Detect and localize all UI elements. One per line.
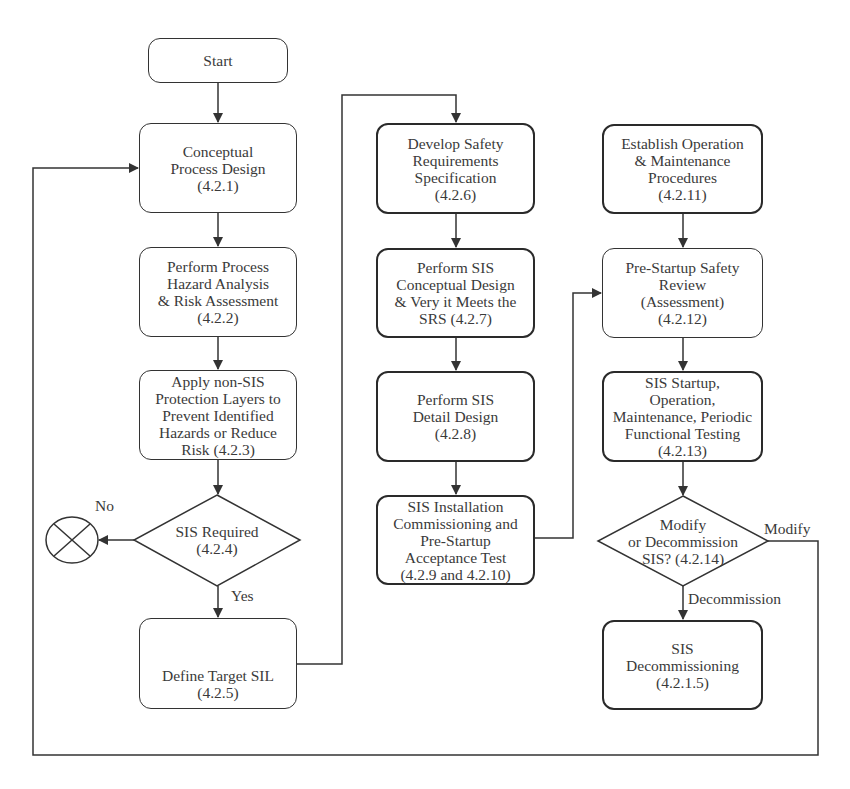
node-text: Hazards or Reduce [159,424,277,441]
node-text: Process Design [170,160,265,177]
node-text: Apply non-SIS [171,373,264,390]
node-text: Conceptual [183,143,254,160]
modify-decommission-label: Modify or Decommission SIS? (4.2.14) [613,516,753,567]
node-text: Prevent Identified [162,407,273,424]
node-text: Procedures [648,169,717,186]
node-text: Operation, [650,391,716,408]
non-sis-protection-node: Apply non-SIS Protection Layers to Preve… [139,370,297,460]
edge-label-yes: Yes [231,587,254,605]
sis-startup-node: SIS Startup, Operation, Maintenance, Per… [602,371,763,462]
node-text: (4.2.12) [658,310,707,327]
node-text: (Assessment) [641,293,725,310]
node-text: Maintenance, Periodic [613,408,752,425]
node-text: Commissioning and [393,515,517,532]
node-text: Develop Safety [408,135,504,152]
node-text: & Very it Meets the [395,293,517,310]
node-text: Functional Testing [625,425,740,442]
node-text: (4.2.11) [658,186,707,203]
node-text: Modify [613,516,753,533]
node-text: SIS Startup, [645,374,720,391]
node-text: Perform SIS [417,259,494,276]
node-text: SRS (4.2.7) [419,310,492,327]
node-text: (4.2.1.5) [656,674,709,691]
edge-label-modify: Modify [764,520,811,538]
edge-label-no: No [95,497,114,515]
node-text: SIS Required [167,523,267,540]
node-text: SIS? (4.2.14) [613,550,753,567]
node-text: SIS Installation [407,498,503,515]
sis-installation-node: SIS Installation Commissioning and Pre-S… [376,495,535,585]
sis-conceptual-design-node: Perform SIS Conceptual Design & Very it … [376,248,535,338]
start-node: Start [148,38,288,83]
node-text: (4.2.9 and 4.2.10) [400,566,510,583]
node-text: Pre-Startup Safety [625,259,739,276]
node-text: Risk (4.2.3) [181,441,255,458]
define-target-sil-node: Define Target SIL (4.2.5) [139,618,297,709]
process-hazard-analysis-node: Perform Process Hazard Analysis & Risk A… [139,247,297,337]
node-text: Acceptance Test [405,549,506,566]
sis-detail-design-node: Perform SIS Detail Design (4.2.8) [376,371,535,462]
node-text: Decommissioning [626,657,739,674]
node-text: (4.2.1) [197,177,238,194]
node-text: Requirements [412,152,498,169]
node-text: Pre-Startup [420,532,491,549]
operation-maintenance-procedures-node: Establish Operation & Maintenance Proced… [602,124,763,214]
node-text: & Maintenance [635,152,731,169]
node-text: Hazard Analysis [167,275,269,292]
develop-srs-node: Develop Safety Requirements Specificatio… [376,123,535,214]
node-text: Perform Process [167,258,269,275]
sis-required-label: SIS Required (4.2.4) [167,523,267,557]
start-label: Start [203,52,232,69]
node-text: Conceptual Design [396,276,514,293]
node-text: (4.2.6) [435,186,476,203]
node-text: SIS [671,640,693,657]
node-text: Establish Operation [621,135,744,152]
node-text: (4.2.13) [658,442,707,459]
node-text: Define Target SIL [162,667,274,684]
node-text: Specification [415,169,497,186]
node-text: & Risk Assessment [158,292,279,309]
node-text: Perform SIS [417,391,494,408]
node-text: Protection Layers to [155,390,281,407]
terminate-circle-x-icon [46,517,98,563]
node-text: (4.2.4) [167,540,267,557]
sis-decommissioning-node: SIS Decommissioning (4.2.1.5) [602,620,763,710]
node-text: or Decommission [613,533,753,550]
pre-startup-review-node: Pre-Startup Safety Review (Assessment) (… [602,248,763,338]
node-text: (4.2.5) [197,684,238,701]
node-text: Review [659,276,706,293]
node-text: (4.2.8) [435,425,476,442]
node-text: (4.2.2) [197,309,238,326]
conceptual-process-design-node: Conceptual Process Design (4.2.1) [139,123,297,213]
node-text: Detail Design [413,408,499,425]
edge-label-decommission: Decommission [688,590,781,608]
